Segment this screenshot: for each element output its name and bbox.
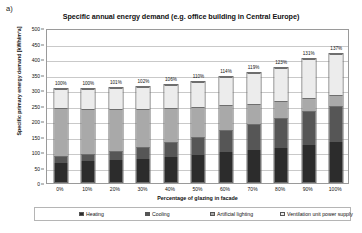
bar-segment-vent[interactable]: [82, 89, 95, 109]
bar-segment-vent[interactable]: [137, 87, 150, 108]
bar-segment-lighting[interactable]: [82, 109, 95, 155]
x-tick-label: 50%: [192, 186, 202, 192]
bar-segment-cooling[interactable]: [275, 118, 288, 148]
bar-segment-vent[interactable]: [247, 73, 260, 103]
bar-segment-lighting[interactable]: [275, 101, 288, 118]
stacked-bar[interactable]: [53, 88, 68, 183]
stacked-bar[interactable]: [329, 53, 344, 183]
bar-segment-lighting[interactable]: [220, 105, 233, 130]
bar-segment-lighting[interactable]: [137, 109, 150, 148]
bar-segment-cooling[interactable]: [192, 137, 205, 155]
bar-percentage-label: 101%: [110, 80, 122, 85]
bar-segment-lighting[interactable]: [330, 95, 343, 106]
stacked-bar[interactable]: [108, 87, 123, 183]
bar-segment-lighting[interactable]: [164, 108, 177, 142]
x-axis-title: Percentage of glazing in facade: [46, 195, 349, 201]
legend-item[interactable]: Ventilation unit power supply: [280, 211, 353, 217]
bar-segment-vent[interactable]: [302, 59, 315, 97]
y-tick-label: 100: [32, 150, 40, 156]
y-tick-label: 150: [32, 135, 40, 141]
bar-slot[interactable]: 101%: [102, 30, 130, 183]
x-tick-label: 60%: [220, 186, 230, 192]
bar-series-container: 100%100%101%102%106%110%114%119%123%131%…: [47, 30, 348, 183]
bar-segment-cooling[interactable]: [164, 142, 177, 157]
bar-segment-heating[interactable]: [302, 145, 315, 182]
bar-segment-lighting[interactable]: [192, 107, 205, 137]
bar-segment-heating[interactable]: [247, 150, 260, 182]
legend-swatch-icon: [145, 212, 150, 217]
bar-slot[interactable]: 123%: [267, 30, 295, 183]
stacked-bar[interactable]: [81, 88, 96, 183]
legend-label: Heating: [86, 211, 104, 217]
stacked-bar[interactable]: [219, 76, 234, 183]
bar-segment-vent[interactable]: [54, 89, 67, 108]
legend-item[interactable]: Heating: [79, 211, 104, 217]
bar-slot[interactable]: 131%: [295, 30, 323, 183]
bar-segment-lighting[interactable]: [54, 108, 67, 156]
bar-segment-cooling[interactable]: [54, 156, 67, 163]
stacked-bar[interactable]: [301, 58, 316, 183]
bar-percentage-label: 137%: [330, 46, 342, 51]
bar-slot[interactable]: 100%: [47, 30, 75, 183]
y-tick-label: 0: [37, 181, 40, 187]
bar-percentage-label: 114%: [220, 69, 231, 74]
bar-segment-heating[interactable]: [137, 159, 150, 182]
legend-swatch-icon: [79, 212, 84, 217]
x-tick-label: 100%: [329, 186, 342, 192]
bar-segment-vent[interactable]: [275, 68, 288, 102]
bar-segment-cooling[interactable]: [109, 151, 122, 160]
bar-percentage-label: 110%: [193, 74, 204, 79]
bar-segment-heating[interactable]: [330, 142, 343, 182]
bar-slot[interactable]: 102%: [130, 30, 158, 183]
bar-segment-cooling[interactable]: [137, 147, 150, 159]
stacked-bar[interactable]: [136, 86, 151, 183]
x-tick-label: 80%: [275, 186, 285, 192]
y-tick-label: 250: [32, 104, 40, 110]
bar-segment-heating[interactable]: [275, 148, 288, 182]
bar-segment-cooling[interactable]: [220, 130, 233, 152]
bar-segment-vent[interactable]: [330, 54, 343, 95]
bar-segment-cooling[interactable]: [302, 111, 315, 145]
bar-slot[interactable]: 119%: [240, 30, 268, 183]
stacked-bar[interactable]: [163, 84, 178, 183]
bar-segment-vent[interactable]: [109, 88, 122, 109]
y-tick-mark: [41, 122, 44, 123]
y-tick-label: 50: [34, 166, 40, 172]
bar-segment-vent[interactable]: [164, 85, 177, 108]
legend-item[interactable]: Cooling: [145, 211, 170, 217]
bar-segment-vent[interactable]: [220, 77, 233, 105]
bar-segment-heating[interactable]: [164, 157, 177, 182]
bar-segment-heating[interactable]: [82, 161, 95, 182]
legend-label: Cooling: [152, 211, 170, 217]
bar-segment-heating[interactable]: [54, 163, 67, 182]
y-tick-label: 500: [32, 26, 40, 32]
bar-slot[interactable]: 106%: [157, 30, 185, 183]
x-tick-label: 20%: [110, 186, 120, 192]
bar-segment-lighting[interactable]: [247, 104, 260, 125]
legend-swatch-icon: [210, 212, 215, 217]
bar-segment-lighting[interactable]: [302, 98, 315, 112]
bar-segment-lighting[interactable]: [109, 109, 122, 151]
bar-slot[interactable]: 100%: [75, 30, 103, 183]
bar-segment-cooling[interactable]: [330, 106, 343, 143]
figure-panel: a) Specific annual energy demand (e.g. o…: [0, 0, 362, 233]
stacked-bar[interactable]: [246, 72, 261, 183]
bar-segment-heating[interactable]: [109, 160, 122, 182]
bar-segment-heating[interactable]: [220, 152, 233, 182]
bar-percentage-label: 119%: [248, 65, 259, 70]
bar-segment-heating[interactable]: [192, 155, 205, 182]
stacked-bar[interactable]: [191, 81, 206, 183]
x-tick-label: 70%: [248, 186, 258, 192]
bar-slot[interactable]: 110%: [185, 30, 213, 183]
bar-segment-cooling[interactable]: [82, 154, 95, 161]
legend-item[interactable]: Artificial lighting: [210, 211, 253, 217]
stacked-bar[interactable]: [274, 67, 289, 183]
bar-slot[interactable]: 114%: [212, 30, 240, 183]
y-tick-mark: [41, 106, 44, 107]
y-tick-label: 200: [32, 119, 40, 125]
bar-slot[interactable]: 137%: [322, 30, 350, 183]
y-tick-mark: [41, 184, 44, 185]
bar-percentage-label: 100%: [55, 81, 67, 86]
bar-segment-vent[interactable]: [192, 82, 205, 107]
bar-segment-cooling[interactable]: [247, 124, 260, 150]
